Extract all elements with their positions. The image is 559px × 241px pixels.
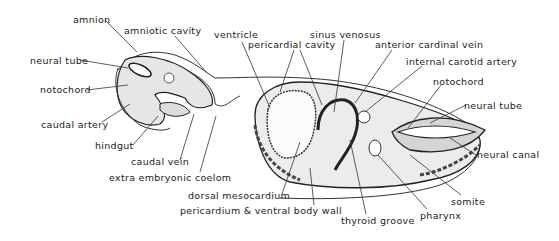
label-notochord-right: notochord (433, 77, 484, 87)
label-pharynx: pharynx (420, 211, 461, 221)
label-somite: somite (451, 197, 485, 207)
label-neural-tube-right: neural tube (464, 101, 522, 111)
label-dorsal-mesocardium: dorsal mesocardium (188, 191, 290, 201)
label-pericardial-cavity: pericardial cavity (248, 40, 335, 50)
label-anterior-cardinal-vein: anterior cardinal vein (375, 40, 483, 50)
label-amniotic-cavity: amniotic cavity (124, 26, 201, 36)
label-sinus-venosus: sinus venosus (310, 30, 381, 40)
label-caudal-artery: caudal artery (41, 120, 108, 130)
label-extra-embryonic-coelom: extra embryonic coelom (109, 173, 231, 183)
label-hindgut: hindgut (95, 141, 134, 151)
label-internal-carotid-artery: internal carotid artery (406, 57, 517, 67)
label-neural-canal: neural canal (477, 150, 539, 160)
label-neural-tube-left: neural tube (30, 56, 88, 66)
embryo-section-diagram: amnion amniotic cavity neural tube notoc… (0, 0, 559, 241)
label-caudal-vein: caudal vein (131, 157, 189, 167)
label-thyroid-groove: thyroid groove (341, 216, 415, 226)
label-notochord-left: notochord (40, 85, 91, 95)
label-amnion: amnion (73, 15, 110, 25)
label-pericardium-ventral-body-wall: pericardium & ventral body wall (180, 206, 342, 216)
